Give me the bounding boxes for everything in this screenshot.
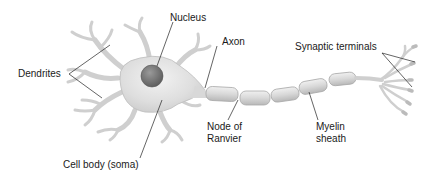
neuron-illustration	[0, 0, 430, 175]
leader-line-node-ranvier	[228, 100, 238, 120]
leader-line-dendrites-upper	[69, 45, 110, 74]
label-dendrites: Dendrites	[18, 68, 61, 79]
leader-line-axon	[205, 46, 217, 88]
neuron-diagram: Nucleus Dendrites Axon Synaptic terminal…	[0, 0, 430, 175]
label-myelin-sheath-line2: sheath	[316, 133, 346, 144]
myelin-sheath-segments	[206, 72, 357, 105]
label-nucleus: Nucleus	[170, 12, 206, 23]
label-axon: Axon	[222, 36, 245, 47]
label-synaptic-terminals: Synaptic terminals	[295, 41, 377, 52]
label-cell-body: Cell body (soma)	[63, 159, 139, 170]
label-myelin-sheath-line1: Myelin	[316, 121, 345, 132]
cell-body	[120, 56, 205, 112]
nucleus	[141, 65, 163, 87]
synaptic-terminals	[356, 46, 416, 114]
leader-line-myelin	[309, 92, 318, 120]
label-node-of-ranvier-line1: Node of	[207, 121, 242, 132]
label-node-of-ranvier-line2: Ranvier	[207, 133, 241, 144]
